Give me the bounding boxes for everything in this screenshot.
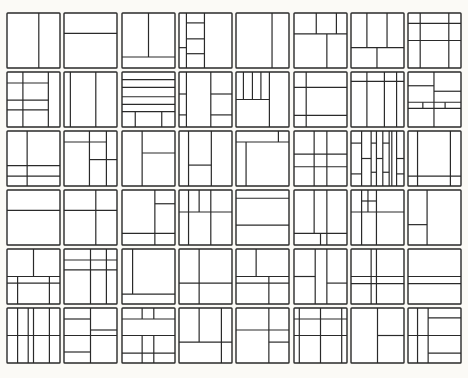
- square-frame: [408, 131, 461, 186]
- square-frame: [294, 131, 347, 186]
- square-frame: [7, 131, 60, 186]
- composition-square: [179, 13, 232, 68]
- square-frame: [408, 190, 461, 245]
- composition-grid: [0, 0, 468, 378]
- composition-square: [64, 190, 117, 245]
- composition-square: [351, 249, 404, 304]
- composition-square: [236, 131, 289, 186]
- composition-square: [236, 72, 289, 127]
- composition-square: [294, 308, 347, 363]
- square-frame: [122, 131, 175, 186]
- square-frame: [64, 131, 117, 186]
- composition-square: [294, 131, 347, 186]
- composition-square: [7, 249, 60, 304]
- square-frame: [64, 13, 117, 68]
- composition-square: [179, 131, 232, 186]
- composition-square: [351, 190, 404, 245]
- composition-square: [122, 13, 175, 68]
- composition-square: [236, 249, 289, 304]
- composition-square: [7, 131, 60, 186]
- composition-square: [408, 249, 461, 304]
- square-frame: [351, 190, 404, 245]
- composition-square: [7, 190, 60, 245]
- composition-square: [408, 131, 461, 186]
- composition-square: [122, 249, 175, 304]
- composition-square: [408, 72, 461, 127]
- composition-square: [294, 249, 347, 304]
- composition-square: [64, 131, 117, 186]
- square-frame: [179, 131, 232, 186]
- square-frame: [64, 190, 117, 245]
- composition-square: [7, 72, 60, 127]
- composition-square: [122, 72, 175, 127]
- composition-square: [64, 308, 117, 363]
- composition-square: [64, 13, 117, 68]
- composition-square: [408, 13, 461, 68]
- square-frame: [179, 190, 232, 245]
- composition-square: [179, 190, 232, 245]
- composition-square: [351, 308, 404, 363]
- composition-square: [179, 249, 232, 304]
- composition-square: [122, 308, 175, 363]
- square-frame: [7, 13, 60, 68]
- composition-square: [122, 190, 175, 245]
- composition-square: [351, 131, 404, 186]
- composition-square: [7, 308, 60, 363]
- composition-square: [351, 72, 404, 127]
- composition-square: [236, 190, 289, 245]
- composition-square: [294, 13, 347, 68]
- composition-square: [294, 72, 347, 127]
- square-frame: [122, 249, 175, 304]
- composition-square: [351, 13, 404, 68]
- square-frame: [64, 72, 117, 127]
- square-frame: [236, 308, 289, 363]
- composition-square: [236, 13, 289, 68]
- composition-square: [179, 308, 232, 363]
- square-frame: [179, 249, 232, 304]
- square-frame: [179, 308, 232, 363]
- composition-square: [179, 72, 232, 127]
- square-frame: [294, 13, 347, 68]
- square-frame: [236, 13, 289, 68]
- composition-square: [408, 308, 461, 363]
- composition-square: [7, 13, 60, 68]
- composition-square: [294, 190, 347, 245]
- composition-square: [236, 308, 289, 363]
- composition-square: [408, 190, 461, 245]
- square-frame: [122, 190, 175, 245]
- composition-square: [64, 72, 117, 127]
- square-frame: [7, 190, 60, 245]
- composition-square: [122, 131, 175, 186]
- square-frame: [236, 131, 289, 186]
- square-frame: [294, 72, 347, 127]
- composition-square: [64, 249, 117, 304]
